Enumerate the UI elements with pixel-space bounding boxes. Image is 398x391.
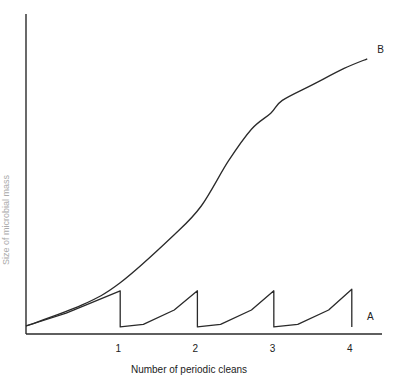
series-label-b: B [377, 44, 384, 55]
x-tick-label-1: 1 [115, 343, 121, 354]
x-tick-labels: 1234 [115, 343, 353, 354]
curve-b [26, 59, 367, 326]
x-axis-label: Number of periodic cleans [131, 364, 247, 375]
y-axis-label-group: Size of microbial mass [1, 174, 11, 265]
curves [26, 59, 367, 327]
x-tick-label-2: 2 [193, 343, 199, 354]
x-tick-label-3: 3 [270, 343, 276, 354]
series-labels: BA [367, 44, 384, 322]
series-label-a: A [367, 311, 374, 322]
x-tick-label-4: 4 [347, 343, 353, 354]
chart: Size of microbial mass 1234 Number of pe… [0, 0, 398, 391]
y-axis-label: Size of microbial mass [1, 174, 11, 265]
